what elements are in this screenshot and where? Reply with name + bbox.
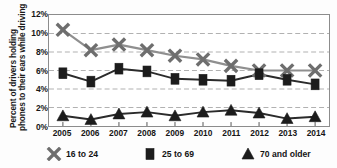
legend-marker-triangle-icon — [240, 147, 256, 161]
chart-figure: Percent of drivers holding phones to the… — [0, 0, 337, 168]
y-axis-tick: 2% — [26, 104, 48, 112]
legend-entry-0: 16 to 24 — [46, 147, 98, 161]
legend-label: 25 to 69 — [162, 149, 194, 159]
legend-entry-1: 25 to 69 — [142, 147, 194, 161]
y-axis-tick: 6% — [26, 67, 48, 75]
series-1-markers — [59, 63, 319, 90]
y-axis-tick: 8% — [26, 48, 48, 56]
legend-label: 70 and older — [260, 149, 311, 159]
y-axis-tick-labels: 0%2%4%6%8%10%12% — [26, 14, 48, 127]
x-axis-tick: 2014 — [296, 128, 336, 138]
y-axis-tick: 10% — [26, 29, 48, 37]
data-series-layer — [49, 15, 329, 126]
chart-legend: 16 to 2425 to 6970 and older — [36, 144, 326, 164]
legend-label: 16 to 24 — [66, 149, 98, 159]
series-0 — [63, 30, 315, 71]
legend-entry-2: 70 and older — [240, 147, 311, 161]
y-axis-tick: 4% — [26, 85, 48, 93]
legend-marker-square-icon — [142, 147, 158, 161]
plot-area — [48, 14, 330, 127]
legend-marker-x-cross-icon — [46, 147, 62, 161]
series-2 — [63, 110, 315, 119]
y-axis-tick: 12% — [26, 10, 48, 18]
x-axis-tick-labels: 2005200620072008200920102011201220132014 — [48, 128, 330, 142]
